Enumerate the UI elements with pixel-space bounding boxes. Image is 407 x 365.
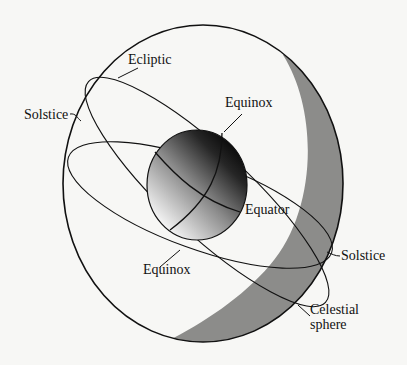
- label-solstice-right: Solstice: [341, 248, 385, 263]
- label-equinox-top: Equinox: [225, 95, 272, 110]
- equinox-top-leader: [224, 114, 242, 132]
- label-celestial-sphere: Celestial sphere: [310, 302, 359, 332]
- label-equator: Equator: [245, 202, 289, 217]
- label-equinox-bottom: Equinox: [143, 262, 190, 277]
- label-ecliptic: Ecliptic: [128, 52, 172, 67]
- label-solstice-left: Solstice: [24, 107, 68, 122]
- earth-globe: [147, 130, 247, 240]
- label-celestial-line2: sphere: [310, 317, 359, 332]
- celestial-sphere-diagram: Ecliptic Solstice Equinox Equator Equino…: [0, 0, 407, 365]
- label-celestial-line1: Celestial: [310, 302, 359, 317]
- ecliptic-leader: [118, 68, 138, 78]
